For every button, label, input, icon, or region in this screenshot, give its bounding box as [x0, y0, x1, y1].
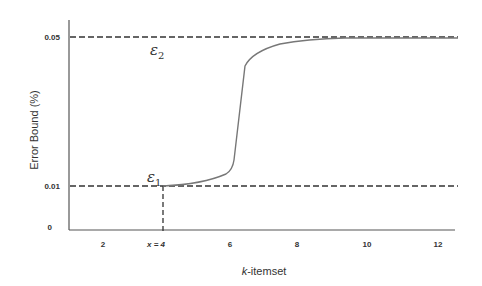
epsilon-1-label: ε1	[147, 168, 161, 188]
y-tick-0.01: 0.01	[44, 182, 60, 191]
epsilon-2-symbol: ε	[150, 41, 158, 59]
epsilon-2-subscript: 2	[158, 50, 164, 61]
x-tick-2: 2	[101, 240, 106, 249]
x-axis-label: k-itemset	[242, 265, 287, 277]
x-tick-6: 6	[228, 240, 233, 249]
epsilon-2-label: ε2	[150, 41, 164, 61]
y-axis-label: Error Bound (%)	[28, 90, 40, 169]
x-tick-8: 8	[295, 240, 300, 249]
y-tick-0.05: 0.05	[44, 33, 60, 42]
error-bound-curve	[163, 38, 458, 186]
x-tick-4: x = 4	[146, 240, 166, 249]
epsilon-1-subscript: 1	[155, 177, 161, 188]
x-tick-10: 10	[363, 240, 372, 249]
error-bound-chart: 0.05 0.01 0 2 x = 4 6 8 10 12 Error Boun…	[0, 0, 482, 286]
x-tick-12: 12	[434, 240, 443, 249]
x-axis-label-rest: -itemset	[247, 265, 286, 277]
epsilon-1-symbol: ε	[147, 168, 155, 186]
y-tick-0: 0	[48, 223, 53, 232]
